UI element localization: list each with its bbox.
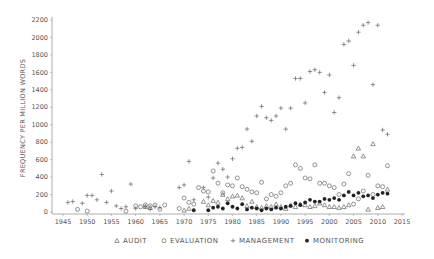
monitoring-point — [371, 196, 375, 200]
x-tick-label: 1950 — [79, 218, 96, 226]
management-point — [308, 69, 312, 73]
monitoring-point — [298, 203, 302, 207]
evaluation-point — [187, 200, 191, 204]
evaluation-point — [337, 193, 341, 197]
y-tick-label: 2000 — [31, 34, 48, 42]
management-point — [361, 23, 365, 27]
management-point — [250, 139, 254, 143]
x-tick-label: 2015 — [394, 218, 411, 226]
y-tick-label: 1200 — [31, 103, 48, 111]
audit-point — [327, 205, 331, 209]
management-point — [380, 128, 384, 132]
monitoring-point — [260, 208, 264, 212]
evaluation-point — [269, 193, 273, 197]
management-point — [90, 193, 94, 197]
scatter-chart: 0200400600800100012001400160018002000220… — [0, 0, 434, 259]
legend: AUDITEVALUATIONMANAGEMENTMONITORING — [115, 237, 364, 245]
monitoring-point — [235, 207, 239, 211]
legend-label: MANAGEMENT — [239, 237, 295, 245]
evaluation-point — [332, 186, 336, 190]
monitoring-point — [245, 207, 249, 211]
audit-point — [206, 203, 210, 207]
evaluation-point — [381, 185, 385, 189]
management-point — [192, 198, 196, 202]
management-point — [313, 68, 317, 72]
management-point — [235, 146, 239, 150]
monitoring-point — [294, 201, 298, 205]
management-point — [274, 114, 278, 118]
management-point — [66, 200, 70, 204]
management-point — [124, 205, 128, 209]
evaluation-point — [235, 176, 239, 180]
management-point — [225, 175, 229, 179]
management-point — [201, 185, 205, 189]
monitoring-point — [269, 207, 273, 211]
evaluation-point — [289, 181, 293, 185]
management-point — [245, 127, 249, 131]
monitoring-point — [323, 197, 327, 201]
audit-point — [347, 203, 351, 207]
monitoring-point — [342, 194, 346, 198]
legend-marker-triangle — [115, 239, 119, 243]
y-tick-label: 0 — [44, 208, 48, 216]
legend-label: MONITORING — [313, 237, 364, 245]
management-point — [230, 157, 234, 161]
monitoring-point — [279, 207, 283, 211]
evaluation-point — [177, 207, 181, 211]
management-point — [95, 198, 99, 202]
audit-point — [385, 187, 389, 191]
evaluation-point — [255, 191, 259, 195]
management-point — [322, 90, 326, 94]
evaluation-point — [138, 205, 142, 209]
audit-point — [211, 198, 215, 202]
monitoring-point — [211, 206, 215, 210]
management-point — [206, 195, 210, 199]
management-point — [342, 42, 346, 46]
monitoring-point — [327, 198, 331, 202]
management-point — [317, 70, 321, 74]
monitoring-point — [192, 208, 196, 212]
monitoring-point — [250, 206, 254, 210]
management-point — [351, 63, 355, 67]
management-point — [347, 39, 351, 43]
management-point — [158, 205, 162, 209]
management-point — [109, 189, 113, 193]
legend-label: AUDIT — [123, 237, 147, 245]
evaluation-point — [279, 191, 283, 195]
y-tick-label: 600 — [36, 156, 48, 164]
x-tick-label: 2010 — [370, 218, 387, 226]
audit-point — [371, 142, 375, 146]
evaluation-point — [293, 163, 297, 167]
management-point — [153, 205, 157, 209]
evaluation-point — [284, 184, 288, 188]
evaluation-point — [240, 185, 244, 189]
y-axis-title: FREQUENCY PER MILLION WORDS — [19, 59, 27, 177]
management-point — [332, 110, 336, 114]
management-point — [85, 193, 89, 197]
management-point — [385, 132, 389, 136]
evaluation-point — [356, 197, 360, 201]
management-point — [284, 127, 288, 131]
audit-point — [216, 200, 220, 204]
evaluation-point — [211, 169, 215, 173]
management-point — [80, 201, 84, 205]
evaluation-point — [216, 181, 220, 185]
audit-point — [201, 199, 205, 203]
audit-point — [356, 146, 360, 150]
management-point — [216, 161, 220, 165]
x-tick-label: 1960 — [127, 218, 144, 226]
monitoring-point — [386, 192, 390, 196]
management-point — [288, 106, 292, 110]
evaluation-point — [163, 203, 167, 207]
evaluation-point — [192, 202, 196, 206]
y-tick-label: 400 — [36, 173, 48, 181]
legend-label: EVALUATION — [170, 237, 219, 245]
monitoring-point — [221, 207, 225, 211]
data-points — [66, 20, 390, 213]
y-tick-label: 1000 — [31, 121, 48, 129]
evaluation-point — [245, 187, 249, 191]
evaluation-point — [197, 186, 201, 190]
y-tick-label: 1800 — [31, 51, 48, 59]
monitoring-point — [216, 205, 220, 209]
audit-point — [308, 205, 312, 209]
